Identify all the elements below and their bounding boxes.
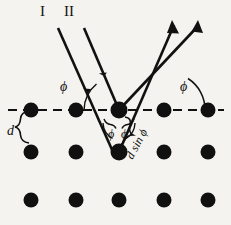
spacing-d-label: d [7, 124, 14, 138]
atom [112, 193, 127, 208]
ray-label-two: II [64, 4, 74, 19]
phi-label-center-right: ϕ [121, 128, 127, 140]
atom [24, 103, 39, 118]
phi-label-center-left: ϕ [108, 128, 114, 140]
atom [157, 103, 172, 118]
atom [24, 145, 39, 160]
atom [69, 103, 84, 118]
atom [69, 193, 84, 208]
outgoing-ray-two [119, 20, 203, 110]
diagram-canvas [0, 0, 231, 225]
phi-label-right: ϕ [180, 80, 187, 94]
bragg-diffraction-figure: I II ϕ ϕ ϕ ϕ d d sin ϕ [0, 0, 231, 225]
ray-label-one: I [40, 4, 45, 19]
atom [201, 103, 216, 118]
atom [201, 193, 216, 208]
phi-label-left: ϕ [60, 80, 67, 94]
atom [24, 193, 39, 208]
atom [201, 145, 216, 160]
lattice-row-middle [24, 144, 216, 161]
atom-scattering-upper [111, 102, 128, 119]
atom [69, 145, 84, 160]
outgoing-ray-one-arrowhead [167, 20, 179, 34]
lattice-row-bottom [24, 193, 216, 208]
atom [157, 193, 172, 208]
lattice-row-top [24, 102, 216, 119]
outgoing-ray-two-arrowhead [192, 20, 204, 33]
atom [157, 145, 172, 160]
